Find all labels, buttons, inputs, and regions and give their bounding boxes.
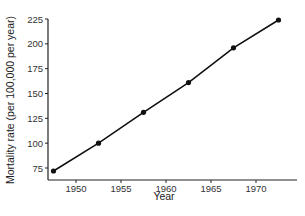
data-point-marker [231,45,236,50]
data-point-marker [141,110,146,115]
data-series [51,17,281,173]
axes [48,19,297,180]
x-tick-label: 1955 [110,183,131,194]
y-tick-label: 150 [27,88,43,99]
data-point-marker [96,141,101,146]
data-point-marker [51,168,56,173]
y-tick-label: 175 [27,63,43,74]
x-axis-label: Year [153,190,175,202]
y-axis-ticks: 75100125150175200225 [27,14,48,174]
y-tick-label: 125 [27,113,43,124]
y-axis-label: Mortality rate (per 100,000 per year) [4,16,16,184]
data-point-marker [186,80,191,85]
x-tick-label: 1970 [245,183,266,194]
data-point-marker [276,17,281,22]
x-tick-label: 1965 [200,183,221,194]
series-line [54,20,279,171]
x-tick-label: 1950 [65,183,86,194]
y-tick-label: 225 [27,14,43,25]
y-tick-label: 100 [27,138,43,149]
line-chart: 75100125150175200225 1950195519601965197… [0,0,305,216]
y-tick-label: 75 [32,163,43,174]
y-tick-label: 200 [27,38,43,49]
